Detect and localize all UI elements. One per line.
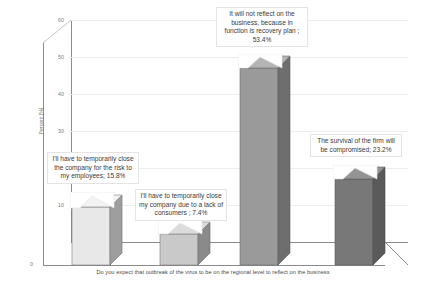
bar-1[interactable] — [72, 207, 110, 265]
bar-4[interactable] — [335, 179, 373, 265]
y-axis-title: Percent [%] — [38, 98, 44, 144]
data-label-3: It will not reflect on the business, bec… — [216, 7, 308, 47]
y-tick-50: 50 — [18, 54, 64, 60]
y-tick-60: 60 — [18, 17, 64, 23]
y-tick-10: 10 — [18, 202, 64, 208]
callout-tail-3 — [238, 54, 284, 74]
callout-tail-4 — [333, 165, 379, 185]
y-tick-0: 0 — [30, 261, 33, 267]
wall-depth-edge — [43, 20, 71, 43]
bar-chart: 60 50 40 30 20 10 0 Percent [%] I'll hav… — [0, 0, 426, 287]
y-tick-40: 40 — [18, 91, 64, 97]
floor-left-edge — [43, 43, 44, 265]
bar-3[interactable] — [240, 68, 278, 265]
data-label-2: I'll have to temporarily close my compan… — [135, 189, 227, 221]
callout-tail-1 — [70, 192, 116, 214]
x-axis-title: Do you expect that outbreak of the virus… — [0, 269, 426, 275]
callout-tail-2 — [158, 220, 204, 240]
data-label-1: I'll have to temporarily close the compa… — [47, 152, 139, 184]
data-label-4: The survival of the firm will be comprom… — [310, 134, 402, 157]
